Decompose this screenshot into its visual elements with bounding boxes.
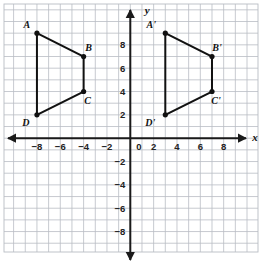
y-axis-label: y <box>143 4 150 16</box>
y-tick-label: −2 <box>114 156 125 167</box>
vertex-label: D' <box>144 117 155 128</box>
vertex-point <box>81 89 86 94</box>
x-tick-label: −4 <box>78 141 90 152</box>
y-tick-label: −4 <box>114 179 126 190</box>
vertex-point <box>163 31 168 36</box>
y-tick-label: −6 <box>114 203 125 214</box>
origin-label: 0 <box>136 141 141 152</box>
vertex-point <box>163 112 168 117</box>
vertex-label: C' <box>211 95 221 106</box>
vertex-point <box>34 112 39 117</box>
vertex-point <box>34 31 39 36</box>
y-tick-label: 8 <box>120 39 125 50</box>
y-tick-label: 2 <box>120 109 125 120</box>
x-tick-label: −8 <box>32 141 43 152</box>
vertex-label: A' <box>146 19 157 30</box>
coordinate-grid-svg: xy0−8−6−4−224688642−2−4−6−8ABCDA'B'C'D' <box>0 0 263 268</box>
vertex-label: C <box>84 95 91 106</box>
vertex-point <box>81 54 86 59</box>
coordinate-plane-figure: xy0−8−6−4−224688642−2−4−6−8ABCDA'B'C'D' <box>0 0 263 268</box>
vertex-point <box>209 54 214 59</box>
x-tick-label: −6 <box>55 141 66 152</box>
vertex-label: B' <box>211 42 222 53</box>
vertex-label: D <box>21 117 29 128</box>
x-axis-label: x <box>251 131 258 143</box>
x-tick-label: 8 <box>221 141 226 152</box>
x-tick-label: 2 <box>151 141 156 152</box>
x-tick-label: 4 <box>174 141 180 152</box>
x-tick-label: 6 <box>198 141 203 152</box>
vertex-label: A <box>23 19 31 30</box>
vertex-label: B <box>84 42 92 53</box>
y-tick-label: −8 <box>114 226 125 237</box>
x-tick-label: −2 <box>102 141 113 152</box>
vertex-point <box>209 89 214 94</box>
y-tick-label: 4 <box>120 86 126 97</box>
y-tick-label: 6 <box>120 63 125 74</box>
